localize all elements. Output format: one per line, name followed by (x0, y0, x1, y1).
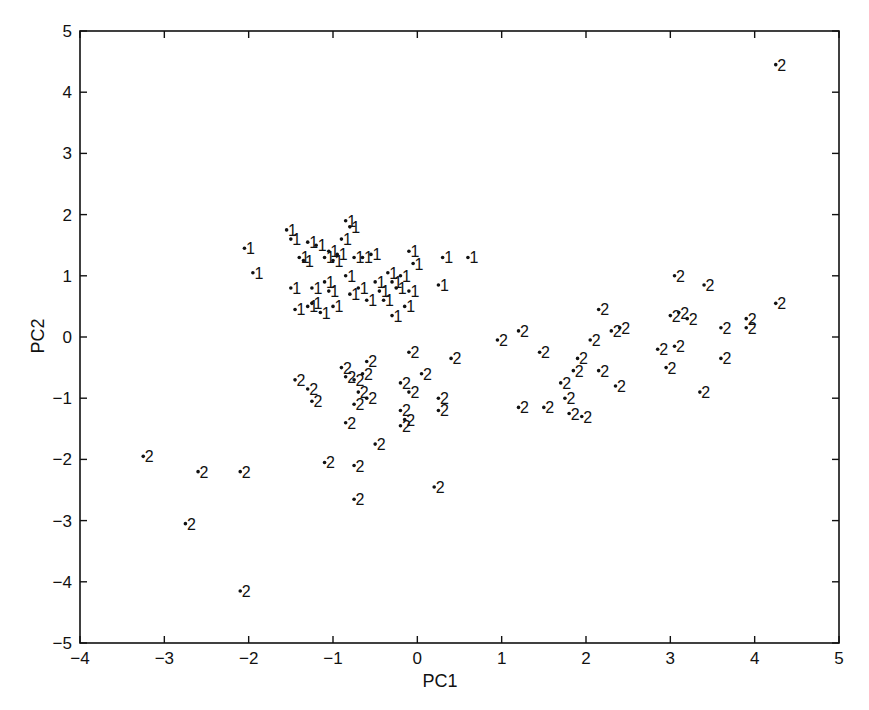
y-axis-ticks: −5−4−3−2−1012345 (53, 22, 839, 653)
point-class-label: 1 (372, 246, 381, 263)
point-class-label: 2 (545, 399, 554, 416)
point-class-label: 2 (676, 338, 685, 355)
data-point: 2 (698, 384, 710, 401)
data-point: 2 (538, 344, 550, 361)
point-class-label: 2 (187, 516, 196, 533)
data-point: 2 (496, 332, 508, 349)
point-class-label: 2 (722, 320, 731, 337)
data-point: 2 (664, 360, 676, 377)
point-class-label: 1 (347, 268, 356, 285)
point-class-label: 2 (313, 393, 322, 410)
point-class-label: 1 (339, 246, 348, 263)
y-tick-label: 3 (63, 144, 72, 163)
data-point: 2 (597, 301, 609, 318)
x-tick-label: −1 (323, 649, 342, 668)
y-tick-label: −5 (53, 634, 72, 653)
data-point: 1 (310, 280, 322, 297)
y-tick-label: −3 (53, 512, 72, 531)
x-tick-label: 1 (497, 649, 506, 668)
x-tick-label: 2 (581, 649, 590, 668)
data-point: 2 (352, 396, 364, 413)
point-class-label: 1 (394, 308, 403, 325)
point-class-label: 2 (440, 402, 449, 419)
point-class-label: 1 (305, 253, 314, 270)
data-point: 2 (141, 448, 153, 465)
data-point: 2 (572, 363, 584, 380)
y-tick-label: 4 (63, 83, 72, 102)
point-class-label: 2 (499, 332, 508, 349)
point-class-label: 1 (406, 298, 415, 315)
x-tick-label: 3 (666, 649, 675, 668)
x-axis-title: PC1 (422, 671, 457, 691)
data-point: 1 (344, 268, 356, 285)
plot-border (80, 31, 839, 643)
point-class-label: 1 (326, 274, 335, 291)
scatter-chart: −4−3−2−1012345 −5−4−3−2−1012345 11111111… (0, 0, 869, 710)
point-class-label: 1 (410, 283, 419, 300)
point-class-label: 2 (701, 384, 710, 401)
data-point: 1 (293, 301, 305, 318)
data-point: 2 (196, 464, 208, 481)
point-class-label: 1 (297, 301, 306, 318)
point-class-label: 2 (242, 464, 251, 481)
point-class-label: 2 (689, 311, 698, 328)
point-class-label: 1 (440, 277, 449, 294)
series-1: 1111111111111111111111111111111111111111… (243, 213, 479, 325)
point-class-label: 2 (356, 491, 365, 508)
point-class-label: 2 (600, 301, 609, 318)
point-class-label: 2 (436, 479, 445, 496)
point-class-label: 2 (617, 378, 626, 395)
point-class-label: 1 (444, 249, 453, 266)
data-point: 2 (673, 268, 685, 285)
data-point: 2 (774, 295, 786, 312)
data-point: 2 (323, 454, 335, 471)
data-point: 1 (441, 249, 453, 266)
point-class-label: 2 (297, 372, 306, 389)
data-point: 2 (399, 418, 411, 435)
x-tick-label: −3 (155, 649, 174, 668)
data-point: 1 (466, 249, 478, 266)
x-tick-label: −4 (70, 649, 89, 668)
series-2: 2222222222222222222222222222222222222222… (141, 57, 786, 600)
x-tick-label: −2 (239, 649, 258, 668)
data-point: 1 (289, 280, 301, 297)
data-point: 2 (614, 378, 626, 395)
data-point: 2 (669, 308, 681, 325)
point-class-label: 2 (722, 350, 731, 367)
point-class-label: 1 (368, 292, 377, 309)
data-point: 2 (702, 277, 714, 294)
point-class-label: 2 (621, 320, 630, 337)
point-class-label: 1 (254, 265, 263, 282)
data-point: 2 (588, 332, 600, 349)
data-point: 2 (719, 350, 731, 367)
data-point: 2 (744, 320, 756, 337)
plot-frame (80, 31, 839, 643)
data-point: 2 (774, 57, 786, 74)
point-class-label: 1 (335, 298, 344, 315)
point-class-label: 2 (145, 448, 154, 465)
point-class-label: 2 (242, 583, 251, 600)
data-point: 2 (432, 479, 444, 496)
point-class-label: 2 (748, 320, 757, 337)
data-point: 1 (251, 265, 263, 282)
y-axis-title: PC2 (28, 318, 48, 353)
data-point: 2 (673, 338, 685, 355)
data-point: 2 (399, 375, 411, 392)
data-point: 1 (437, 277, 449, 294)
point-class-label: 2 (402, 418, 411, 435)
y-tick-label: −4 (53, 573, 72, 592)
data-point: 2 (437, 402, 449, 419)
point-class-label: 2 (777, 295, 786, 312)
x-tick-label: 5 (834, 649, 843, 668)
point-class-label: 2 (571, 406, 580, 423)
point-class-label: 2 (368, 353, 377, 370)
data-point: 1 (403, 298, 415, 315)
point-class-label: 2 (668, 360, 677, 377)
data-point: 2 (656, 341, 668, 358)
point-class-label: 2 (659, 341, 668, 358)
data-point: 1 (323, 274, 335, 291)
x-tick-label: 0 (413, 649, 422, 668)
point-class-label: 2 (200, 464, 209, 481)
point-class-label: 2 (356, 458, 365, 475)
y-tick-label: −2 (53, 450, 72, 469)
